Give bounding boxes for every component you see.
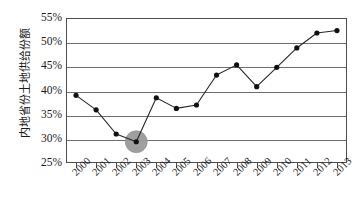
data-point-2010: [274, 65, 279, 70]
data-point-2000: [73, 93, 78, 98]
data-point-2001: [94, 107, 99, 112]
data-point-2005: [174, 106, 179, 111]
data-point-2003: [134, 139, 139, 144]
data-point-2007: [214, 72, 219, 77]
data-point-2002: [114, 131, 119, 136]
chart-container: 内地省份土地供给份额 25%30%35%40%45%50%55% 2000200…: [0, 0, 362, 205]
data-point-2009: [254, 84, 259, 89]
data-point-2013: [334, 28, 339, 33]
series-layer: [66, 18, 347, 163]
data-point-2008: [234, 62, 239, 67]
data-point-2011: [294, 45, 299, 50]
data-point-2004: [154, 95, 159, 100]
data-point-2012: [314, 30, 319, 35]
y-axis-title: 内地省份土地供给份额: [18, 8, 34, 158]
data-point-2006: [194, 102, 199, 107]
y-tick-label-25: 25%: [20, 157, 62, 168]
